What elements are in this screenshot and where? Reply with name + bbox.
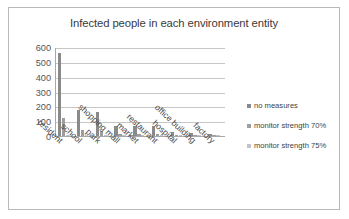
y-axis-tick: 500 — [36, 58, 51, 68]
legend-label: monitor strength 75% — [254, 141, 326, 150]
x-axis: residentschoolparkshopping mallmarketres… — [55, 138, 225, 208]
legend-swatch-icon — [247, 144, 251, 148]
y-axis-tick: 200 — [36, 102, 51, 112]
legend-label: monitor strength 70% — [254, 121, 326, 130]
legend-item[interactable]: no measures — [247, 101, 349, 110]
chart-frame: Infected people in each environment enti… — [8, 7, 340, 210]
legend-label: no measures — [254, 101, 298, 110]
y-axis-tick: 300 — [36, 88, 51, 98]
bar — [216, 135, 219, 136]
legend-item[interactable]: monitor strength 70% — [247, 121, 349, 130]
chart-title: Infected people in each environment enti… — [9, 17, 339, 29]
chart-legend: no measuresmonitor strength 70%monitor s… — [247, 101, 349, 161]
legend-swatch-icon — [247, 104, 251, 108]
y-axis-tick: 400 — [36, 73, 51, 83]
bar-group — [206, 48, 225, 136]
y-axis-tick: 600 — [36, 43, 51, 53]
legend-swatch-icon — [247, 124, 251, 128]
bar — [58, 53, 61, 136]
legend-item[interactable]: monitor strength 75% — [247, 141, 349, 150]
